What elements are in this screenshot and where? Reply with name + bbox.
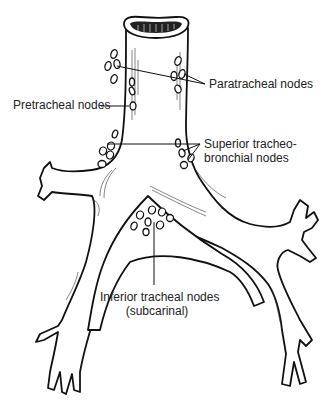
- label-paratracheal-nodes: Paratracheal nodes: [209, 78, 313, 91]
- label-pretracheal-nodes: Pretracheal nodes: [13, 99, 110, 112]
- trachea-diagram: [0, 0, 336, 406]
- label-inferior-tracheal-line1: Inferior tracheal nodes: [100, 291, 214, 304]
- label-superior-tracheobronchial-line1: Superior tracheo-: [204, 138, 297, 151]
- label-inferior-tracheal-line2: (subcarinal): [100, 305, 214, 318]
- label-superior-tracheobronchial-line2: bronchial nodes: [204, 152, 289, 165]
